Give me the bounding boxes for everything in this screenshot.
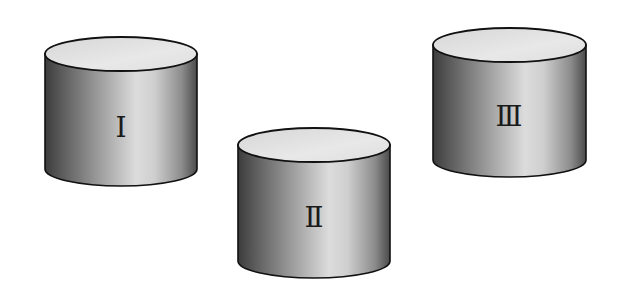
cylinder-label: Ⅲ: [495, 101, 522, 132]
cylinder-label: Ⅱ: [304, 202, 323, 233]
cylinder-label: Ⅰ: [115, 112, 126, 143]
cylinder-II: Ⅱ: [238, 128, 390, 278]
cylinders-diagram: Ⅰ Ⅱ Ⅲ: [0, 0, 624, 294]
cylinder-top: [45, 37, 197, 71]
cylinder-I: Ⅰ: [45, 37, 197, 186]
cylinder-top: [238, 128, 390, 162]
cylinder-top: [433, 28, 586, 62]
cylinder-III: Ⅲ: [433, 28, 586, 177]
